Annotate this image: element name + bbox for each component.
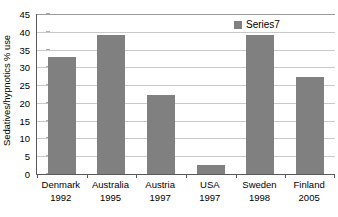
y-axis-tick-label: 30 bbox=[19, 62, 30, 73]
bar[interactable] bbox=[97, 35, 125, 174]
bar-slot bbox=[87, 14, 137, 174]
y-axis-tick-label: 15 bbox=[19, 115, 30, 126]
category-country: Finland bbox=[284, 178, 334, 191]
bar[interactable] bbox=[246, 35, 274, 174]
category-year: 1997 bbox=[135, 191, 185, 204]
category-year: 1995 bbox=[86, 191, 136, 204]
x-axis-category-labels: Denmark1992Australia1995Austria1997USA19… bbox=[36, 178, 334, 212]
category-country: USA bbox=[185, 178, 235, 191]
category-year: 2005 bbox=[284, 191, 334, 204]
category-year: 1997 bbox=[185, 191, 235, 204]
category-country: Austria bbox=[135, 178, 185, 191]
legend-color-swatch bbox=[234, 21, 242, 29]
bar-slot bbox=[37, 14, 87, 174]
x-axis-tick-mark bbox=[334, 174, 335, 178]
bar[interactable] bbox=[147, 95, 175, 174]
category-year: 1998 bbox=[235, 191, 285, 204]
y-axis-tick-labels: 051015202530354045 bbox=[14, 14, 32, 174]
x-axis-category-label: Sweden1998 bbox=[235, 178, 285, 204]
y-axis-title-label: Sedatives/hypnotics % use bbox=[2, 34, 13, 145]
bar-chart: Sedatives/hypnotics % use 05101520253035… bbox=[0, 0, 338, 217]
legend-entry-label: Series7 bbox=[246, 19, 280, 30]
bar-slot bbox=[186, 14, 236, 174]
y-axis-tick-label: 45 bbox=[19, 9, 30, 20]
y-axis-tick-label: 20 bbox=[19, 97, 30, 108]
category-country: Sweden bbox=[235, 178, 285, 191]
y-axis-tick-label: 5 bbox=[25, 151, 30, 162]
bar-slot bbox=[236, 14, 286, 174]
x-axis-category-label: Austria1997 bbox=[135, 178, 185, 204]
y-axis-tick-label: 40 bbox=[19, 26, 30, 37]
category-country: Australia bbox=[86, 178, 136, 191]
y-axis-tick-label: 0 bbox=[25, 169, 30, 180]
bar-slot bbox=[136, 14, 186, 174]
y-axis-tick-label: 10 bbox=[19, 133, 30, 144]
plot-area bbox=[36, 14, 335, 175]
bar[interactable] bbox=[197, 165, 225, 174]
x-axis-category-label: Finland2005 bbox=[284, 178, 334, 204]
bar[interactable] bbox=[48, 57, 76, 174]
category-country: Denmark bbox=[36, 178, 86, 191]
bar-slot bbox=[285, 14, 335, 174]
bars-layer bbox=[37, 14, 335, 174]
y-axis-tick-label: 25 bbox=[19, 80, 30, 91]
chart-legend: Series7 bbox=[232, 18, 282, 31]
category-year: 1992 bbox=[36, 191, 86, 204]
x-axis-category-label: Denmark1992 bbox=[36, 178, 86, 204]
bar[interactable] bbox=[296, 77, 324, 174]
x-axis-category-label: Australia1995 bbox=[86, 178, 136, 204]
y-axis-title: Sedatives/hypnotics % use bbox=[0, 0, 14, 180]
y-axis-tick-label: 35 bbox=[19, 44, 30, 55]
x-axis-category-label: USA1997 bbox=[185, 178, 235, 204]
